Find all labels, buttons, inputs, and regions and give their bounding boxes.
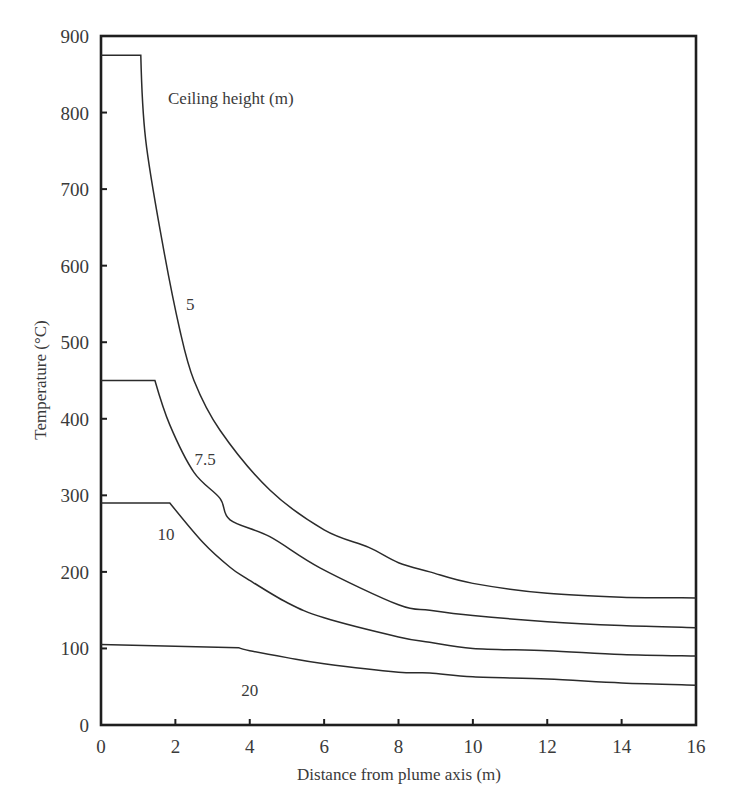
series-label-20: 20 [241,681,258,700]
series-labels: 57.51020 [158,295,259,700]
series-label-5: 5 [186,295,195,314]
series-line-10 [101,503,696,656]
x-tick-label: 4 [245,736,255,757]
y-tick-label: 800 [61,103,90,124]
y-tick-label: 300 [61,485,90,506]
y-tick-label: 100 [61,638,90,659]
plot-border [101,36,696,725]
x-axis-title: Distance from plume axis (m) [297,765,501,784]
y-tick-label: 400 [61,409,90,430]
legend-title: Ceiling height (m) [168,89,294,108]
y-tick-label: 600 [61,256,90,277]
y-tick-label: 0 [80,715,90,736]
x-tick-label: 16 [687,736,706,757]
y-tick-label: 900 [61,26,90,47]
series-label-7-5: 7.5 [195,450,216,469]
y-tick-label: 500 [61,332,90,353]
x-tick-label: 10 [463,736,482,757]
y-tick-label: 200 [61,562,90,583]
x-tick-label: 6 [319,736,329,757]
x-tick-label: 2 [171,736,181,757]
x-tick-label: 12 [538,736,557,757]
series-line-7-5 [101,381,696,628]
x-tick-label: 0 [96,736,106,757]
temperature-vs-distance-chart: 0100200300400500600700800900 02468101214… [0,0,734,810]
x-tick-label: 14 [612,736,632,757]
x-tick-label: 8 [394,736,404,757]
series-label-10: 10 [158,525,175,544]
series-line-20 [101,645,696,686]
series-group [101,55,696,685]
y-tick-label: 700 [61,179,90,200]
y-axis-title: Temperature (°C) [31,320,50,439]
plot-frame [101,36,696,725]
series-line-5 [101,55,696,598]
